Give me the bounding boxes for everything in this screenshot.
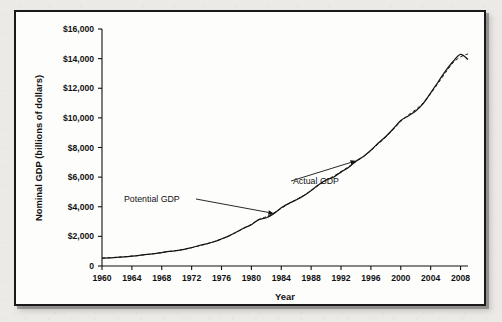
svg-text:1964: 1964 (122, 273, 141, 283)
gdp-line-chart: 0$2,000$4,000$6,000$8,000$10,000$12,000$… (16, 12, 483, 303)
svg-text:1972: 1972 (182, 273, 201, 283)
svg-text:1960: 1960 (92, 273, 111, 283)
svg-text:1968: 1968 (152, 273, 171, 283)
svg-text:0: 0 (89, 261, 94, 271)
svg-text:2008: 2008 (451, 273, 470, 283)
x-axis-title: Year (275, 291, 295, 302)
svg-text:$8,000: $8,000 (68, 143, 95, 153)
annotation-label-potential-gdp: Potential GDP (124, 194, 180, 204)
svg-text:$14,000: $14,000 (63, 54, 94, 64)
svg-text:$10,000: $10,000 (63, 113, 94, 123)
svg-text:$2,000: $2,000 (68, 231, 95, 241)
series-line-actual-gdp (102, 54, 468, 258)
svg-text:2000: 2000 (391, 273, 410, 283)
svg-text:$16,000: $16,000 (63, 24, 94, 34)
svg-text:$6,000: $6,000 (68, 172, 95, 182)
figure-frame: 0$2,000$4,000$6,000$8,000$10,000$12,000$… (14, 10, 486, 306)
y-axis-ticks (98, 29, 102, 266)
svg-text:1996: 1996 (361, 273, 380, 283)
x-axis-tick-labels: 1960196419681972197619801984198819921996… (92, 273, 470, 283)
svg-text:$12,000: $12,000 (63, 83, 94, 93)
annotation-potential-gdp: Potential GDP (124, 194, 274, 215)
svg-text:2004: 2004 (421, 273, 440, 283)
svg-text:1976: 1976 (212, 273, 231, 283)
svg-text:1984: 1984 (272, 273, 291, 283)
svg-text:$4,000: $4,000 (68, 202, 95, 212)
series-line-potential-gdp (102, 54, 468, 258)
leader-line-potential-gdp (196, 199, 268, 212)
svg-text:1980: 1980 (242, 273, 261, 283)
svg-text:1988: 1988 (302, 273, 321, 283)
x-axis-ticks (102, 266, 461, 270)
svg-text:1992: 1992 (331, 273, 350, 283)
annotation-actual-gdp: Actual GDP (291, 160, 356, 186)
y-axis-tick-labels: 0$2,000$4,000$6,000$8,000$10,000$12,000$… (63, 24, 94, 271)
annotation-label-actual-gdp: Actual GDP (293, 176, 339, 186)
y-axis-title: Nominal GDP (billions of dollars) (33, 75, 44, 221)
